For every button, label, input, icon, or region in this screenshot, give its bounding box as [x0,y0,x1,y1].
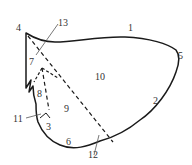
label-4: 4 [16,22,21,33]
label-1: 1 [128,22,133,33]
label-10: 10 [95,71,105,82]
label-5: 5 [178,50,183,61]
dashed-line-vertical [42,68,49,110]
label-8: 8 [37,88,42,99]
label-2: 2 [153,95,158,106]
leader-11 [26,114,41,118]
label-9: 9 [64,103,69,114]
label-11: 11 [13,113,23,124]
notch-line [40,113,50,118]
leaf-outline-diagram: 4 13 1 5 7 10 8 9 2 11 3 6 12 [0,0,192,165]
label-3: 3 [46,121,51,132]
dashed-line-short [34,68,42,82]
label-13: 13 [58,17,68,28]
label-7: 7 [29,56,34,67]
label-6: 6 [66,136,71,147]
label-12: 12 [88,149,98,160]
